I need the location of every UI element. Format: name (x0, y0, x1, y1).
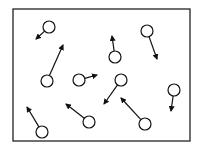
molecule-circle (83, 116, 95, 128)
molecule-circle (41, 75, 53, 87)
velocity-arrow-icon (112, 36, 114, 51)
velocity-arrow-icon (104, 85, 118, 104)
molecule-diagram (0, 0, 198, 143)
molecule (41, 45, 63, 87)
molecule-circle (139, 118, 151, 130)
molecule (121, 98, 151, 130)
velocity-arrow-icon (66, 104, 84, 118)
velocity-arrow-icon (27, 107, 39, 127)
velocity-arrow-icon (121, 98, 141, 120)
molecule (36, 21, 55, 39)
molecule-circle (141, 25, 153, 37)
molecule (66, 104, 95, 128)
molecule (73, 74, 97, 86)
velocity-arrow-icon (36, 31, 45, 39)
molecules-group (27, 21, 180, 138)
molecule-circle (36, 126, 48, 138)
molecule-circle (115, 74, 127, 86)
molecule-circle (43, 21, 55, 33)
container-box (13, 9, 190, 141)
molecule (168, 84, 180, 111)
molecule-circle (168, 84, 180, 96)
velocity-arrow-icon (49, 45, 63, 76)
velocity-arrow-icon (171, 96, 173, 111)
velocity-arrow-icon (85, 75, 97, 78)
velocity-arrow-icon (149, 37, 157, 59)
molecule-circle (73, 74, 85, 86)
molecule-circle (109, 51, 121, 63)
molecule (104, 74, 127, 104)
molecule (27, 107, 48, 138)
molecule (109, 36, 121, 63)
molecule (141, 25, 157, 59)
